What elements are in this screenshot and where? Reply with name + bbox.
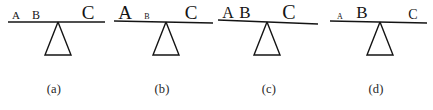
balance-scene-c: A B C [215, 0, 323, 72]
balance-scene-b: A B C [108, 0, 216, 72]
balance-diagram-d: A B C [322, 0, 430, 72]
balance-diagram-a: A B C [0, 0, 108, 72]
panel-d: A B C (d) [322, 0, 430, 110]
weight-label-b-B: B [144, 12, 149, 21]
balance-diagram-c: A B C [215, 0, 323, 72]
weight-label-c-B: B [239, 3, 250, 22]
panel-a: A B C (a) [0, 0, 108, 110]
balance-diagram-b: A B C [108, 0, 216, 72]
balance-beam-figure: A B C (a) A B C (b) A B [0, 0, 433, 110]
panel-caption-d: (d) [322, 82, 430, 97]
fulcrum-triangle-d [367, 22, 393, 55]
fulcrum-triangle-b [153, 22, 179, 55]
weight-label-a-A: A [12, 9, 20, 21]
balance-scene-a: A B C [0, 0, 108, 72]
panel-caption-a: (a) [0, 82, 108, 97]
fulcrum-triangle-c [254, 22, 280, 55]
weight-label-d-B: B [356, 3, 367, 22]
weight-label-d-A: A [337, 12, 343, 21]
weight-label-b-A: A [118, 2, 132, 23]
weight-label-a-B: B [32, 8, 40, 22]
panel-b: A B C (b) [108, 0, 216, 110]
weight-label-b-C: C [185, 2, 198, 23]
weight-label-c-C: C [282, 1, 295, 23]
panel-caption-c: (c) [215, 82, 323, 97]
fulcrum-triangle-a [45, 22, 71, 55]
weight-label-c-A: A [222, 4, 234, 21]
balance-scene-d: A B C [322, 0, 430, 72]
weight-label-d-C: C [408, 7, 417, 22]
weight-label-a-C: C [82, 2, 95, 23]
panel-c: A B C (c) [215, 0, 323, 110]
panel-caption-b: (b) [108, 82, 216, 97]
